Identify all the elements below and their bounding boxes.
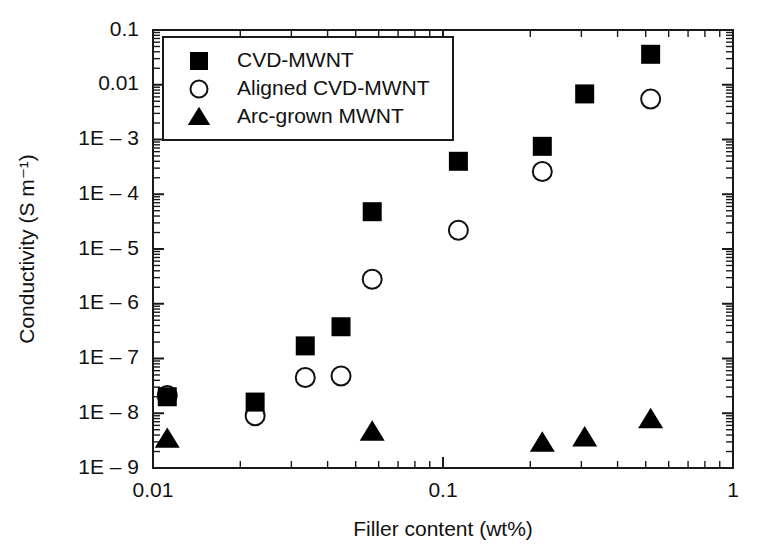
marker-open-circle [296,368,315,387]
scatter-plot-svg: 0.010.110.10.011E – 31E – 41E – 51E – 61… [0,0,772,558]
marker-filled-triangle [638,408,663,428]
chart-legend: CVD-MWNTAligned CVD-MWNTArc-grown MWNT [163,37,453,140]
y-tick-label: 1E – 6 [78,290,139,313]
y-tick-label: 0.1 [110,17,139,40]
marker-open-circle [449,221,468,240]
marker-filled-triangle [530,431,555,451]
marker-filled-square-legend [190,52,208,70]
y-tick-label: 0.01 [98,71,139,94]
x-tick-label: 1 [727,478,739,501]
marker-filled-square [158,387,177,406]
x-tick-label: 0.1 [428,478,457,501]
x-axis-title: Filler content (wt%) [353,517,533,540]
marker-filled-square [533,137,552,156]
marker-filled-square [332,317,351,336]
chart-figure: 0.010.110.10.011E – 31E – 41E – 51E – 61… [0,0,772,558]
marker-filled-square [363,202,382,221]
marker-filled-square [641,45,660,64]
y-tick-label: 1E – 4 [78,181,139,204]
marker-filled-square [575,84,594,103]
marker-open-circle [533,162,552,181]
legend-label: Aligned CVD-MWNT [237,76,430,99]
y-tick-label: 1E – 9 [78,455,139,478]
y-tick-label: 1E – 5 [78,236,139,259]
svg-text:Conductivity (S m⁻¹): Conductivity (S m⁻¹) [15,154,38,344]
legend-label: CVD-MWNT [237,48,354,71]
marker-filled-square [449,152,468,171]
marker-filled-triangle [360,420,385,440]
marker-open-circle [641,89,660,108]
marker-filled-square [296,336,315,355]
marker-filled-square [246,393,265,412]
marker-open-circle [332,366,351,385]
y-tick-label: 1E – 7 [78,345,139,368]
marker-open-circle [363,270,382,289]
y-axis-title: Conductivity (S m⁻¹) [15,154,38,344]
marker-filled-triangle [155,427,180,447]
legend-label: Arc-grown MWNT [237,104,404,127]
x-tick-label: 0.01 [133,478,174,501]
y-tick-label: 1E – 8 [78,400,139,423]
marker-open-circle-legend [191,81,208,98]
y-tick-label: 1E – 3 [78,126,139,149]
marker-filled-triangle [572,426,597,446]
series-arc-grown-mwnt [155,408,663,452]
